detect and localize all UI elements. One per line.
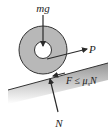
free-body-diagram: mg P F ≤ μsN N: [0, 0, 108, 136]
weight-label: mg: [36, 2, 50, 14]
normal-force-label: N: [54, 117, 63, 129]
applied-force-label: P: [88, 43, 96, 55]
friction-label: F ≤ μsN: [65, 75, 98, 87]
